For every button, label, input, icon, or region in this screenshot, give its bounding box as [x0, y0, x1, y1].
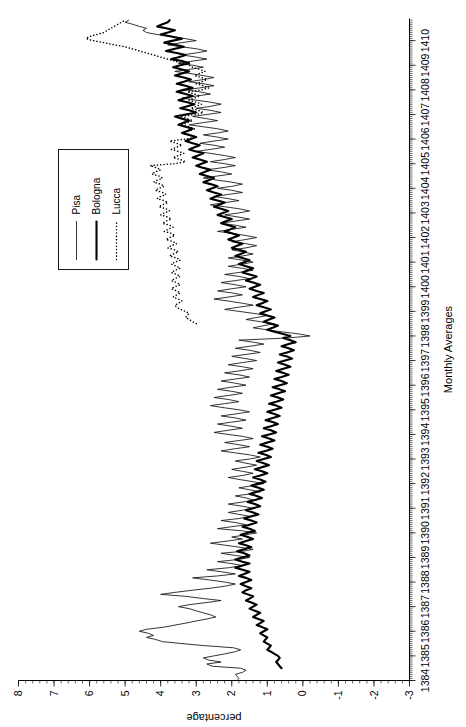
x-tick-label: 1394	[418, 422, 430, 446]
x-tick-label: 1391	[418, 496, 430, 520]
y-tick-label: 2	[225, 690, 237, 696]
x-tick-label: 1392	[418, 471, 430, 495]
x-tick-label: 1407	[418, 102, 430, 126]
y-tick-label: 1	[260, 690, 272, 696]
x-tick-label: 1387	[418, 594, 430, 618]
x-tick-label: 1396	[418, 373, 430, 397]
x-axis-title: Monthly Averages	[441, 305, 453, 393]
y-tick-label: 0	[296, 690, 308, 696]
rotated-chart-wrapper: 1384138513861387138813891390139113921393…	[0, 0, 466, 727]
y-tick-label: 4	[154, 690, 166, 696]
y-axis-title: percentage	[186, 711, 241, 723]
chart-legend[interactable]: PisaBolognaLucca	[58, 149, 128, 269]
x-tick-label: 1389	[418, 545, 430, 569]
plot-area: 1384138513861387138813891390139113921393…	[0, 0, 466, 727]
x-tick-label: 1393	[418, 447, 430, 471]
y-tick-label: 3	[189, 690, 201, 696]
y-tick-label: 7	[47, 690, 59, 696]
y-tick-label: -2	[367, 690, 379, 699]
legend-label-lucca[interactable]: Lucca	[111, 187, 122, 214]
x-tick-label: 1388	[418, 570, 430, 594]
legend-label-bologna[interactable]: Bologna	[91, 177, 102, 214]
x-tick-label: 1386	[418, 619, 430, 643]
x-tick-label: 1400	[418, 274, 430, 298]
y-tick-label: 6	[83, 690, 95, 696]
x-tick-label: 1405	[418, 151, 430, 175]
x-tick-label: 1399	[418, 299, 430, 323]
x-tick-label: 1403	[418, 201, 430, 225]
legend-label-pisa[interactable]: Pisa	[71, 194, 82, 214]
x-tick-label: 1390	[418, 521, 430, 545]
x-tick-label: 1408	[418, 78, 430, 102]
line-chart: 1384138513861387138813891390139113921393…	[0, 0, 466, 727]
x-tick-label: 1409	[418, 53, 430, 77]
x-tick-label: 1384	[418, 668, 430, 692]
y-tick-label: -3	[403, 690, 415, 699]
y-tick-label: -1	[332, 690, 344, 699]
x-tick-label: 1385	[418, 644, 430, 668]
y-tick-label: 5	[118, 690, 130, 696]
chart-background	[0, 0, 466, 727]
x-tick-label: 1406	[418, 127, 430, 151]
x-tick-label: 1404	[418, 176, 430, 200]
y-tick-label: 8	[12, 690, 24, 696]
x-tick-label: 1398	[418, 324, 430, 348]
x-tick-label: 1395	[418, 397, 430, 421]
x-tick-label: 1410	[418, 28, 430, 52]
x-tick-label: 1401	[418, 250, 430, 274]
x-tick-label: 1397	[418, 348, 430, 372]
chart-page: 1384138513861387138813891390139113921393…	[0, 0, 466, 727]
x-tick-label: 1402	[418, 225, 430, 249]
